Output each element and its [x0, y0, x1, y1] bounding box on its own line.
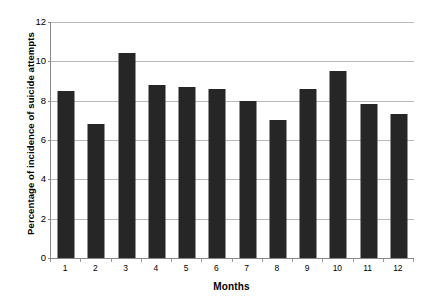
x-tick-mark [171, 259, 172, 262]
bar [179, 87, 196, 258]
bar-slot [233, 22, 263, 258]
x-tick-label: 3 [123, 264, 128, 273]
bar-slot [354, 22, 384, 258]
x-tick-mark [80, 259, 81, 262]
y-tick-label: 6 [41, 135, 46, 145]
x-tick-label: 1 [63, 264, 68, 273]
bar [88, 124, 105, 258]
bar-slot [202, 22, 232, 258]
x-tick-label: 12 [393, 264, 402, 273]
x-tick-mark [292, 259, 293, 262]
bar-slot [172, 22, 202, 258]
y-tick-label: 0 [41, 253, 46, 263]
x-tick-mark [383, 259, 384, 262]
x-tick-label: 9 [305, 264, 310, 273]
bar [330, 71, 347, 258]
y-axis-title: Percentage of incidence of suicide attem… [25, 9, 36, 259]
x-tick-mark [111, 259, 112, 262]
bar [148, 85, 165, 258]
bar [360, 104, 377, 258]
bar [209, 89, 226, 258]
bar [269, 120, 286, 258]
y-tick-label: 12 [35, 17, 46, 27]
x-tick-mark [353, 259, 354, 262]
x-tick-label: 10 [333, 264, 342, 273]
plot-area: 024681012 [50, 22, 414, 259]
bar [118, 53, 135, 258]
x-axis-title: Months [50, 281, 413, 292]
bar-slot [263, 22, 293, 258]
x-tick-mark [141, 259, 142, 262]
y-tick-label: 4 [41, 175, 46, 185]
bar-slot [51, 22, 81, 258]
x-axis-tick-labels: 123456789101112 [50, 264, 413, 278]
x-tick-mark [262, 259, 263, 262]
bar [390, 114, 407, 258]
x-tick-label: 11 [363, 264, 372, 273]
bar-slot [323, 22, 353, 258]
x-axis-ticks [50, 259, 413, 263]
x-tick-mark [50, 259, 51, 262]
bar [300, 89, 317, 258]
x-tick-mark [201, 259, 202, 262]
x-tick-label: 6 [214, 264, 219, 273]
y-tick-label: 2 [41, 214, 46, 224]
x-tick-mark [322, 259, 323, 262]
x-tick-label: 8 [275, 264, 280, 273]
bar-slot [81, 22, 111, 258]
bar-chart-figure: Percentage of incidence of suicide attem… [0, 0, 430, 306]
x-tick-label: 7 [244, 264, 249, 273]
bar [239, 101, 256, 258]
bars-layer [51, 22, 414, 258]
x-tick-mark [413, 259, 414, 262]
x-tick-label: 4 [154, 264, 159, 273]
x-tick-label: 2 [93, 264, 98, 273]
x-tick-label: 5 [184, 264, 189, 273]
bar [58, 91, 75, 258]
x-tick-mark [232, 259, 233, 262]
bar-slot [142, 22, 172, 258]
bar-slot [293, 22, 323, 258]
bar-slot [384, 22, 414, 258]
bar-slot [112, 22, 142, 258]
y-tick-label: 10 [35, 57, 46, 67]
y-tick-label: 8 [41, 96, 46, 106]
